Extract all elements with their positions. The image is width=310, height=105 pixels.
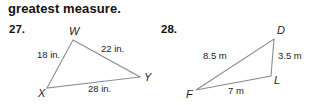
vertex-label-x: X [38,87,45,99]
side-label-fl: 7 m [228,85,244,96]
vertex-label-l: L [274,74,280,86]
worksheet-page: greatest measure. 27. W Y X 18 in. 22 in… [0,0,310,105]
side-label-wy: 22 in. [101,43,124,54]
problem-28-number: 28. [161,23,177,35]
side-label-dl: 3.5 m [278,50,302,61]
vertex-label-f: F [186,88,193,100]
side-label-df: 8.5 m [203,50,227,61]
triangle-wxy-outline [47,40,140,88]
vertex-label-w: W [69,25,79,37]
side-label-wx: 18 in. [37,49,60,60]
vertex-label-y: Y [144,71,151,83]
vertex-label-d: D [277,24,285,36]
triangle-dlf-outline [196,39,274,90]
side-label-xy: 28 in. [88,83,111,94]
problem-27-number: 27. [9,23,25,35]
